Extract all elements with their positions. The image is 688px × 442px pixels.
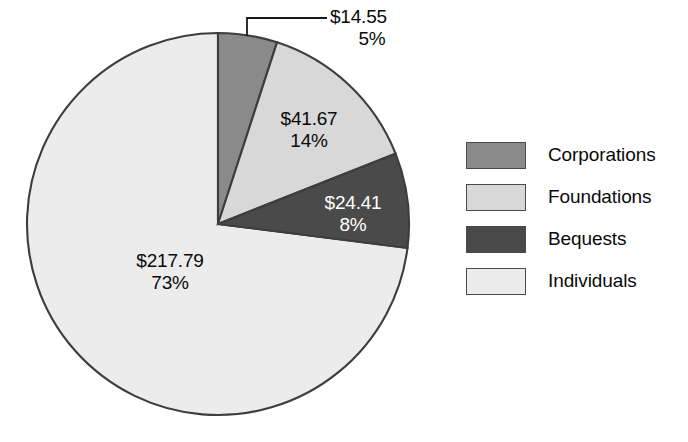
slice-percent-bequests: 8%: [312, 214, 394, 236]
slice-label-bequests: $24.41 8%: [312, 192, 394, 235]
legend-item-individuals[interactable]: Individuals: [466, 260, 682, 302]
slice-value-foundations: $41.67: [281, 108, 338, 129]
legend-swatch-foundations: [466, 184, 526, 211]
legend-label-bequests: Bequests: [548, 228, 626, 250]
slice-label-individuals: $217.79 73%: [118, 250, 222, 293]
slice-percent-corporations: 5%: [330, 28, 414, 50]
slice-percent-foundations: 14%: [268, 130, 350, 152]
legend-swatch-corporations: [466, 142, 526, 169]
legend-item-bequests[interactable]: Bequests: [466, 218, 682, 260]
slice-label-corporations: $14.55 5%: [330, 6, 414, 49]
slice-value-bequests: $24.41: [325, 192, 382, 213]
legend-swatch-individuals: [466, 268, 526, 295]
legend-swatch-bequests: [466, 226, 526, 253]
leader-line-corporations: [247, 18, 327, 36]
chart-legend: Corporations Foundations Bequests Indivi…: [466, 134, 682, 302]
pie-chart: $14.55 5% $41.67 14% $24.41 8% $217.79 7…: [0, 0, 688, 442]
legend-label-individuals: Individuals: [548, 270, 637, 292]
slice-value-individuals: $217.79: [136, 250, 203, 271]
legend-item-corporations[interactable]: Corporations: [466, 134, 682, 176]
legend-label-corporations: Corporations: [548, 144, 656, 166]
legend-item-foundations[interactable]: Foundations: [466, 176, 682, 218]
slice-value-corporations: $14.55: [330, 6, 387, 27]
slice-label-foundations: $41.67 14%: [268, 108, 350, 151]
slice-percent-individuals: 73%: [118, 272, 222, 294]
legend-label-foundations: Foundations: [548, 186, 651, 208]
